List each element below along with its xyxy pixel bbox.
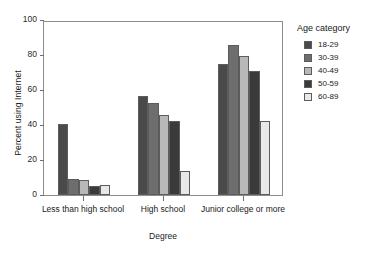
legend-item-label: 18-29 xyxy=(318,40,338,49)
legend-item: 30-39 xyxy=(304,51,350,64)
bar xyxy=(260,121,271,195)
bar xyxy=(68,179,79,195)
y-axis-title: Percent using Internet xyxy=(13,33,23,193)
y-axis-tick-mark xyxy=(40,160,44,161)
legend-item-label: 60-89 xyxy=(318,92,338,101)
bar xyxy=(228,45,239,196)
bar xyxy=(89,186,100,195)
bar xyxy=(159,115,170,195)
legend-item-label: 50-59 xyxy=(318,79,338,88)
legend-swatch-icon xyxy=(304,93,312,101)
y-axis-tick-mark xyxy=(40,90,44,91)
y-axis-tick-label: 0 xyxy=(32,189,37,199)
y-axis-tick-label: 40 xyxy=(28,119,37,129)
legend: Age category 18-2930-3940-4950-5960-89 xyxy=(297,23,350,103)
bar xyxy=(249,71,260,195)
bar xyxy=(100,185,111,196)
bar xyxy=(58,124,69,195)
x-axis-group-label: Junior college or more xyxy=(195,204,291,215)
bar xyxy=(79,180,90,195)
legend-item-label: 40-49 xyxy=(318,66,338,75)
legend-swatch-icon xyxy=(304,41,312,49)
legend-item: 40-49 xyxy=(304,64,350,77)
y-axis-tick-mark xyxy=(40,195,44,196)
legend-item: 60-89 xyxy=(304,90,350,103)
y-axis-tick-label: 60 xyxy=(28,84,37,94)
legend-item: 50-59 xyxy=(304,77,350,90)
x-axis-title: Degree xyxy=(43,231,283,241)
legend-swatch-icon xyxy=(304,67,312,75)
y-axis-tick-label: 20 xyxy=(28,154,37,164)
bar xyxy=(218,64,229,195)
x-axis-tick-mark xyxy=(243,196,244,201)
bar xyxy=(138,96,149,195)
bar xyxy=(239,56,250,195)
y-axis-tick-mark xyxy=(40,55,44,56)
legend-swatch-icon xyxy=(304,80,312,88)
legend-swatch-icon xyxy=(304,54,312,62)
x-axis-tick-mark xyxy=(163,196,164,201)
y-axis-tick-mark xyxy=(40,125,44,126)
bar xyxy=(148,103,159,195)
legend-item-label: 30-39 xyxy=(318,53,338,62)
y-axis-tick-mark xyxy=(40,20,44,21)
chart-figure: Percent using Internet 020406080100 Less… xyxy=(0,0,369,256)
plot-area: 020406080100 xyxy=(43,21,283,196)
x-axis-tick-mark xyxy=(83,196,84,201)
legend-entries: 18-2930-3940-4950-5960-89 xyxy=(297,38,350,103)
legend-item: 18-29 xyxy=(304,38,350,51)
legend-title: Age category xyxy=(297,23,350,33)
bar xyxy=(169,121,180,195)
y-axis-tick-label: 80 xyxy=(28,49,37,59)
y-axis-tick-label: 100 xyxy=(23,14,37,24)
bar xyxy=(180,171,191,195)
